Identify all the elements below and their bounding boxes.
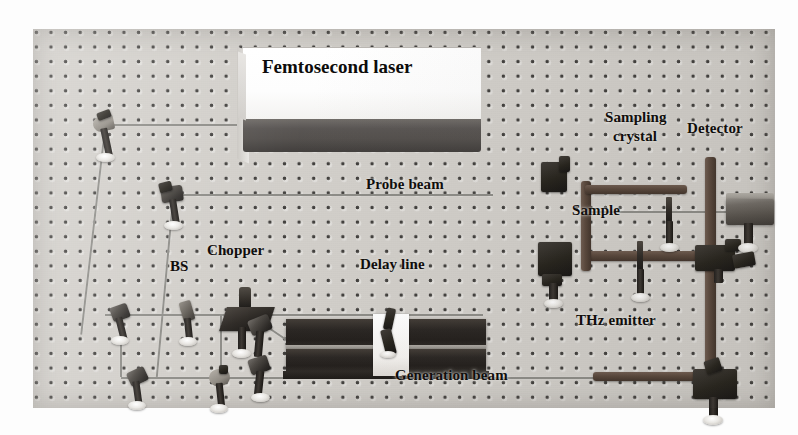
thz-beam-top-horizontal	[585, 185, 687, 194]
mirror-left-lower-base	[111, 336, 129, 345]
label-sampling-crystal-line2: crystal	[613, 129, 657, 145]
sample-base	[631, 293, 650, 302]
mirror-after-bs-post	[254, 331, 264, 358]
beam-splitter-base	[179, 337, 197, 346]
laser-front-panel	[243, 119, 481, 152]
mirror-upper-mid-left-base	[164, 221, 183, 230]
chopper-base	[232, 349, 251, 358]
sampling-crystal-plate[interactable]	[666, 197, 672, 223]
label-probe-beam: Probe beam	[366, 177, 444, 193]
mirror-parabolic-lower-left-body	[538, 242, 572, 276]
label-sampling-crystal-line1: Sampling	[605, 110, 667, 126]
thz-emitter-base	[703, 415, 723, 425]
label-thz-emitter: THz emitter	[576, 313, 656, 329]
thz-beam-sample-horizontal	[585, 251, 713, 261]
label-femtosecond-laser: Femtosecond laser	[262, 56, 412, 78]
label-detector: Detector	[687, 121, 743, 137]
mirror-bottom-mid-base	[210, 404, 228, 413]
label-chopper: Chopper	[207, 243, 264, 259]
detector-box[interactable]	[726, 199, 774, 225]
mirror-probe-right-face	[732, 251, 756, 269]
optical-breadboard	[33, 29, 775, 408]
beam-probe-horizontal-upper	[173, 194, 493, 196]
label-bs: BS	[170, 259, 189, 275]
mirror-delay-retro-base	[380, 351, 396, 358]
label-sample: Sample	[572, 203, 620, 219]
thz-emitter-body	[693, 369, 737, 399]
mirror-bottom-mid-clamp	[219, 365, 228, 374]
mirror-parabolic-upper-right-post	[714, 269, 723, 283]
mirror-before-delay-base	[251, 393, 270, 402]
sampling-crystal-base	[660, 243, 679, 252]
mirror-parabolic-upper-left-tab	[559, 156, 570, 172]
sample-plate[interactable]	[637, 241, 643, 271]
label-delay-line: Delay line	[360, 257, 425, 273]
mirror-bottom-left-base	[128, 401, 146, 410]
label-generation-beam: Generation beam	[395, 368, 508, 384]
chopper-motor	[239, 287, 251, 309]
mirror-top-left-base	[96, 153, 115, 162]
figure-canvas: Femtosecond laser Probe beam Sampling cr…	[0, 0, 798, 435]
mirror-parabolic-lower-left-base	[544, 299, 563, 308]
thz-beam-left-vertical	[581, 181, 591, 271]
laser-corner-bevel	[238, 52, 246, 121]
